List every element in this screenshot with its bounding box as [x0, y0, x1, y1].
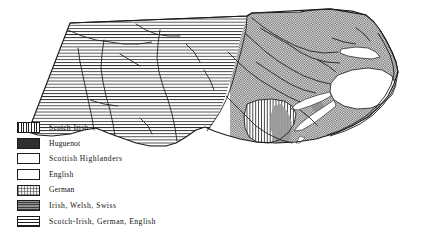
swatch-english [17, 169, 40, 180]
swatch-irish-welsh-swiss [17, 200, 40, 211]
legend-item-german: German [17, 182, 247, 198]
legend-label-huguenot: Huguenot [49, 140, 80, 148]
legend-item-huguenot: Huguenot [17, 136, 247, 152]
swatch-scottish-highlanders [17, 153, 40, 164]
pamlico-sound [330, 68, 396, 109]
legend-item-scotch-irish: Scotch-Irish [17, 120, 247, 136]
legend-item-english: English [17, 167, 247, 183]
swatch-german [17, 185, 40, 196]
legend-label-scotch-irish: Scotch-Irish [49, 124, 88, 132]
legend-label-german: German [49, 186, 75, 194]
legend-label-scottish-highlanders: Scottish Highlanders [49, 155, 123, 163]
legend-item-irish-welsh-swiss: Irish, Welsh, Swiss [17, 198, 247, 214]
legend-label-scotch-irish-german-english: Scotch-Irish, German, English [49, 218, 156, 226]
map-legend: Scotch-Irish Huguenot Scottish Highlande… [17, 120, 247, 229]
swatch-huguenot [17, 138, 40, 149]
swatch-scotch-irish [17, 122, 40, 133]
legend-label-english: English [49, 171, 73, 179]
legend-item-scotch-irish-german-english: Scotch-Irish, German, English [17, 214, 247, 230]
legend-label-irish-welsh-swiss: Irish, Welsh, Swiss [49, 202, 116, 210]
swatch-scotch-irish-german-english [17, 216, 40, 227]
legend-item-scottish-highlanders: Scottish Highlanders [17, 151, 247, 167]
